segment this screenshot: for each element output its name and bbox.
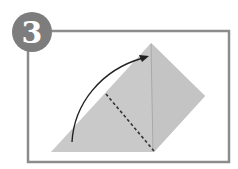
paper-right-flap (151, 43, 205, 152)
step-number: 3 (12, 13, 52, 53)
